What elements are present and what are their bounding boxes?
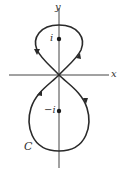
contour-label: C — [24, 141, 32, 152]
diagram-canvas — [0, 0, 123, 173]
point-neg-i-dot — [57, 109, 61, 113]
x-axis-label: x — [111, 69, 117, 79]
point-neg-i-label: −i — [44, 105, 56, 115]
point-i-dot — [57, 37, 61, 41]
figure-eight-contour-diagram: y x i −i C — [0, 0, 123, 173]
point-i-label: i — [50, 33, 53, 43]
y-axis-label: y — [55, 2, 61, 12]
arrow-lower-left-icon — [37, 90, 42, 96]
